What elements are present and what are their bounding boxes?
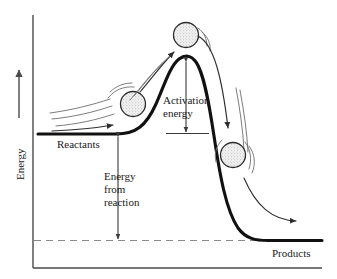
ball-downhill	[215, 140, 254, 173]
products-label: Products	[272, 247, 311, 259]
ball-icon	[174, 23, 199, 48]
entry-motion-group	[50, 99, 114, 131]
motion-arc	[50, 99, 110, 113]
motion-arc	[56, 114, 114, 126]
activation-energy-label-line1: Activation	[163, 94, 210, 106]
energy-diagram-canvas: Energy Activation energy Energy from rea…	[0, 0, 337, 279]
energy-from-reaction-label-line3: reaction	[104, 196, 140, 208]
ball-peak	[174, 23, 211, 52]
energy-from-reaction-annotation: Energy from reaction	[104, 137, 140, 239]
y-axis-label-group: Energy	[14, 70, 26, 180]
reactants-label: Reactants	[57, 138, 100, 150]
energy-from-reaction-label-line1: Energy	[104, 170, 136, 182]
energy-diagram: Energy Activation energy Energy from rea…	[0, 0, 337, 279]
activation-energy-label-line2: energy	[163, 107, 193, 119]
motion-arc	[110, 83, 132, 92]
ball-icon	[221, 143, 246, 168]
right-arrow-icon	[244, 178, 296, 221]
ball-icon	[121, 92, 146, 117]
motion-arc	[236, 88, 244, 150]
energy-from-reaction-label-line2: from	[104, 183, 126, 195]
y-axis-label: Energy	[14, 148, 26, 180]
